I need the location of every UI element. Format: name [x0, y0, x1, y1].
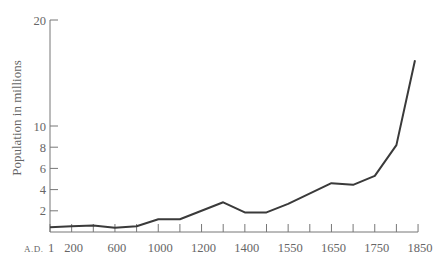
y-axis: 24681020	[34, 14, 59, 233]
y-axis-label: Population in millions	[9, 60, 24, 176]
y-tick-label: 8	[40, 141, 46, 155]
x-axis-prefix-ad: A.D.	[24, 244, 44, 254]
y-tick-label: 20	[34, 14, 47, 28]
x-tick-label: 1200	[191, 241, 216, 255]
y-tick-label: 6	[40, 162, 46, 176]
y-tick-label: 2	[40, 204, 46, 218]
x-tick-label: 1	[48, 241, 54, 255]
x-tick-label: 1850	[408, 241, 433, 255]
x-tick-label: 1400	[234, 241, 259, 255]
x-tick-label: 1550	[278, 241, 303, 255]
population-series-line	[50, 60, 415, 228]
y-tick-label: 10	[34, 120, 47, 134]
x-tick-label: 200	[64, 241, 83, 255]
x-axis: 12006001000120014001550165017501850A.D.	[24, 224, 433, 255]
x-tick-label: 1750	[364, 241, 389, 255]
x-tick-label: 600	[108, 241, 127, 255]
x-tick-label: 1650	[321, 241, 346, 255]
y-tick-label: 4	[40, 183, 47, 197]
population-line-chart: 24681020 1200600100012001400155016501750…	[0, 0, 435, 266]
x-tick-label: 1000	[148, 241, 173, 255]
